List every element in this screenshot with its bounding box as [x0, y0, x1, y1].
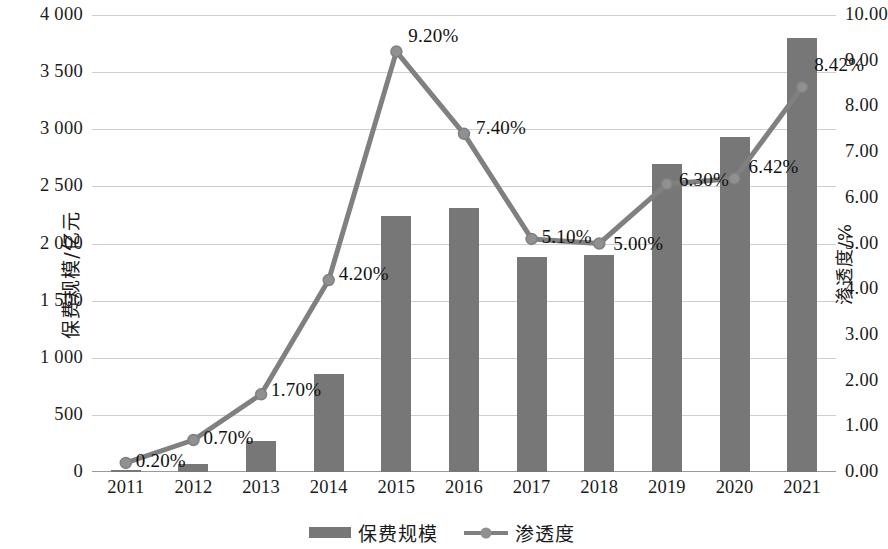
data-point-label: 5.10%	[542, 226, 592, 248]
y-axis-tick-label-left: 500	[54, 404, 83, 425]
x-axis-tick-label: 2017	[513, 477, 551, 498]
y-axis-tick-label-right: 2.00	[845, 370, 879, 391]
x-axis-tick-label: 2021	[783, 477, 821, 498]
y-axis-title-left: 保费规模/亿元	[56, 211, 83, 338]
bar	[381, 216, 411, 472]
x-axis-tick-label: 2014	[310, 477, 348, 498]
x-axis-tick-label: 2011	[107, 477, 144, 498]
data-point-label: 8.42%	[814, 54, 864, 76]
y-axis-tick-label-right: 7.00	[845, 141, 879, 162]
x-axis-tick-label: 2013	[242, 477, 280, 498]
bar	[584, 255, 614, 472]
y-axis-tick-label-left: 2 000	[40, 233, 83, 254]
x-axis-tick-label: 2015	[377, 477, 415, 498]
data-point-marker	[256, 389, 267, 400]
y-axis-tick-label-right: 3.00	[845, 324, 879, 345]
y-axis-tick-label-left: 1 000	[40, 347, 83, 368]
bar	[517, 257, 547, 472]
gridline	[92, 129, 836, 130]
y-axis-tick-label-right: 0.00	[845, 461, 879, 482]
data-point-label: 6.42%	[749, 156, 799, 178]
data-point-label: 9.20%	[408, 25, 458, 47]
data-point-label: 1.70%	[271, 379, 321, 401]
bar	[652, 164, 682, 472]
legend-item-bar-series[interactable]: 保费规模	[309, 519, 438, 546]
y-axis-tick-label-right: 6.00	[845, 187, 879, 208]
plot-area: 05001 0001 5002 0002 5003 0003 5004 0000…	[92, 15, 836, 472]
y-axis-tick-label-right: 4.00	[845, 278, 879, 299]
data-point-marker	[188, 435, 199, 446]
legend-item-label: 渗透度	[515, 519, 575, 546]
x-axis-tick-label: 2019	[648, 477, 686, 498]
y-axis-tick-label-right: 10.00	[845, 4, 888, 25]
y-axis-tick-label-left: 3 500	[40, 61, 83, 82]
x-axis-tick-label: 2016	[445, 477, 483, 498]
y-axis-tick-label-left: 3 000	[40, 118, 83, 139]
y-axis-tick-label-right: 8.00	[845, 95, 879, 116]
gridline	[92, 15, 836, 16]
data-point-label: 0.70%	[203, 427, 253, 449]
data-point-label: 5.00%	[613, 233, 663, 255]
data-point-label: 7.40%	[476, 117, 526, 139]
data-point-label: 6.30%	[679, 169, 729, 191]
line-marker-swatch-icon	[464, 526, 508, 540]
x-axis-tick-label: 2018	[580, 477, 618, 498]
y-axis-tick-label-left: 4 000	[40, 4, 83, 25]
chart-legend: 保费规模 渗透度	[0, 519, 883, 546]
data-point-label: 4.20%	[339, 263, 389, 285]
legend-item-line-series[interactable]: 渗透度	[464, 519, 575, 546]
y-axis-tick-label-left: 2 500	[40, 175, 83, 196]
y-axis-tick-label-left: 0	[73, 461, 83, 482]
data-point-marker	[391, 46, 402, 57]
x-axis-tick-label: 2020	[716, 477, 754, 498]
data-point-marker	[323, 275, 334, 286]
bar	[787, 38, 817, 472]
bar-swatch-icon	[309, 527, 351, 538]
y-axis-tick-label-right: 1.00	[845, 415, 879, 436]
gridline	[92, 72, 836, 73]
data-point-label: 0.20%	[136, 450, 186, 472]
y-axis-tick-label-right: 5.00	[845, 233, 879, 254]
data-point-marker	[120, 457, 131, 468]
x-axis-tick-label: 2012	[175, 477, 213, 498]
bar	[449, 208, 479, 472]
y-axis-tick-label-left: 1 500	[40, 290, 83, 311]
legend-item-label: 保费规模	[358, 519, 438, 546]
